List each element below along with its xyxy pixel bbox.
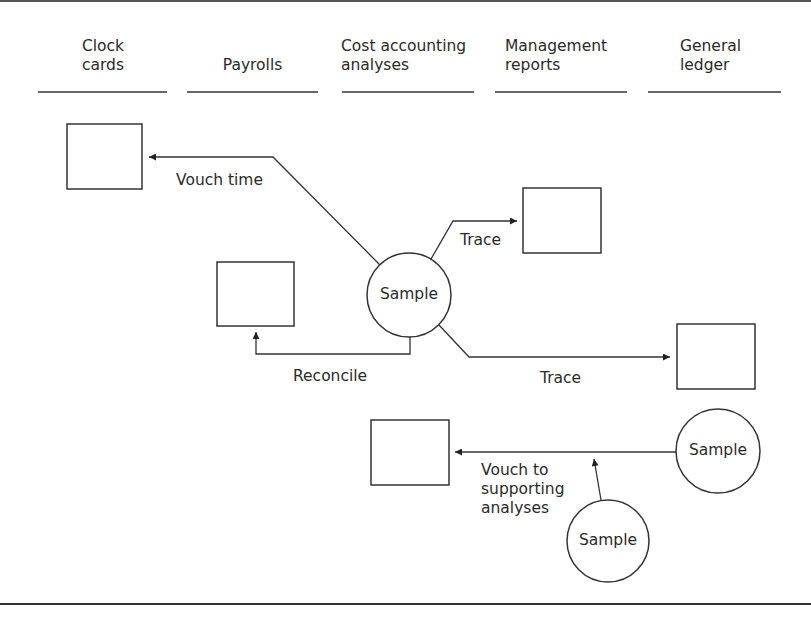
edge-label-vouch-time: Vouch time	[176, 171, 263, 190]
general-ledger-box	[677, 324, 755, 389]
sample-label-ledger: Sample	[676, 441, 760, 459]
lower-sample-arrow	[594, 459, 601, 500]
flow-diagram-canvas	[0, 0, 811, 627]
column-header-management-reports: Management reports	[505, 37, 625, 75]
clock-cards-box	[67, 124, 142, 189]
payrolls-box	[217, 262, 294, 326]
edge-label-trace-management: Trace	[460, 231, 501, 250]
edge-label-reconcile: Reconcile	[293, 367, 367, 386]
column-header-cost-accounting: Cost accounting analyses	[341, 37, 481, 75]
column-header-payrolls: Payrolls	[187, 56, 318, 75]
reconcile-arrow	[256, 332, 410, 354]
column-header-clock-cards: Clock cards	[58, 37, 148, 75]
sample-label-main: Sample	[367, 285, 451, 303]
trace-ledger-arrow	[439, 325, 670, 357]
cost-accounting-box	[371, 420, 449, 485]
management-reports-box	[523, 188, 601, 253]
column-header-general-ledger: General ledger	[680, 37, 770, 75]
edge-label-vouch-supporting: Vouch to supporting analyses	[481, 461, 564, 518]
sample-label-lower: Sample	[566, 531, 650, 549]
edge-label-trace-ledger: Trace	[540, 369, 581, 388]
